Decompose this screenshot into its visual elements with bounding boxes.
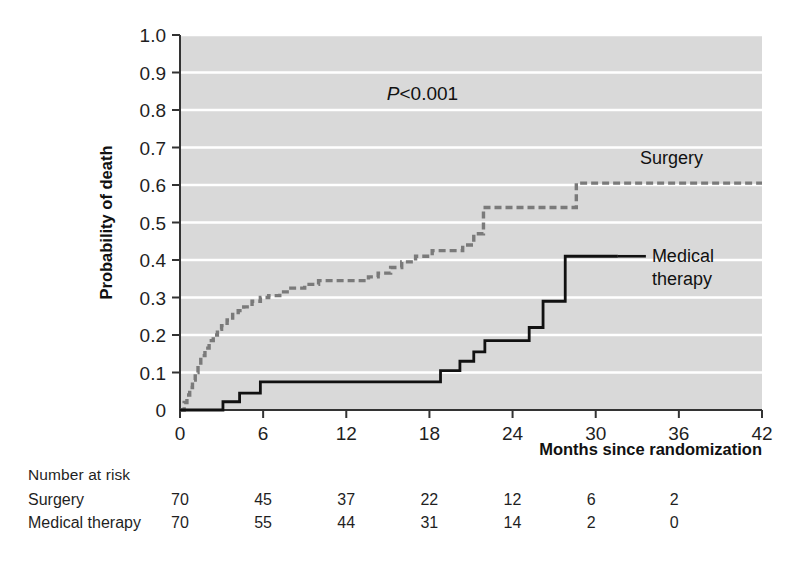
y-tick-label: 0.2	[140, 325, 166, 346]
y-tick-label: 1.0	[140, 25, 166, 46]
x-tick-label: 18	[419, 423, 440, 444]
y-tick-label: 0.6	[140, 175, 166, 196]
y-axis-ticks	[172, 35, 180, 373]
table-row: Surgery 704537221262	[28, 491, 788, 514]
x-tick-label: 12	[336, 423, 357, 444]
kaplan-meier-figure: 00.10.20.30.40.50.60.70.80.91.0 06121824…	[0, 0, 803, 578]
medical-therapy-curve-label-line1: Medical	[652, 246, 714, 266]
y-tick-label: 0.7	[140, 138, 166, 159]
risk-value: 55	[254, 514, 272, 532]
risk-value: 12	[504, 491, 522, 509]
y-tick-label: 0.1	[140, 363, 166, 384]
risk-value: 70	[171, 491, 189, 509]
risk-value: 45	[254, 491, 272, 509]
risk-value: 70	[171, 514, 189, 532]
risk-value: 2	[587, 514, 596, 532]
risk-value: 22	[420, 491, 438, 509]
survival-curve-chart: 00.10.20.30.40.50.60.70.80.91.0 06121824…	[0, 0, 803, 470]
y-tick-label: 0	[155, 400, 166, 421]
medical-therapy-curve-label-line2: therapy	[652, 269, 712, 289]
risk-row-label: Medical therapy	[28, 514, 141, 532]
risk-value: 0	[670, 514, 679, 532]
number-at-risk-title: Number at risk	[28, 466, 788, 484]
x-tick-label: 0	[175, 423, 186, 444]
y-tick-label: 0.3	[140, 288, 166, 309]
risk-value: 44	[337, 514, 355, 532]
x-tick-label: 6	[258, 423, 269, 444]
risk-value: 31	[420, 514, 438, 532]
risk-value: 6	[587, 491, 596, 509]
x-tick-label: 24	[502, 423, 524, 444]
x-axis-ticks	[180, 410, 762, 418]
y-tick-label: 0.8	[140, 100, 166, 121]
number-at-risk-table: Number at risk Surgery 704537221262 Medi…	[28, 466, 788, 537]
y-tick-label: 0.4	[140, 250, 167, 271]
risk-row-label: Surgery	[28, 491, 84, 509]
y-tick-label: 0.5	[140, 213, 166, 234]
risk-value: 37	[337, 491, 355, 509]
risk-value: 14	[504, 514, 522, 532]
table-row: Medical therapy 705544311420	[28, 514, 788, 537]
x-axis-title: Months since randomization	[539, 440, 762, 458]
p-value-annotation: P<0.001	[387, 83, 458, 104]
y-axis-tick-labels: 00.10.20.30.40.50.60.70.80.91.0	[140, 25, 167, 421]
risk-value: 2	[670, 491, 679, 509]
y-tick-label: 0.9	[140, 63, 166, 84]
surgery-curve-label: Surgery	[640, 148, 703, 168]
y-axis-title: Probability of death	[97, 145, 115, 299]
